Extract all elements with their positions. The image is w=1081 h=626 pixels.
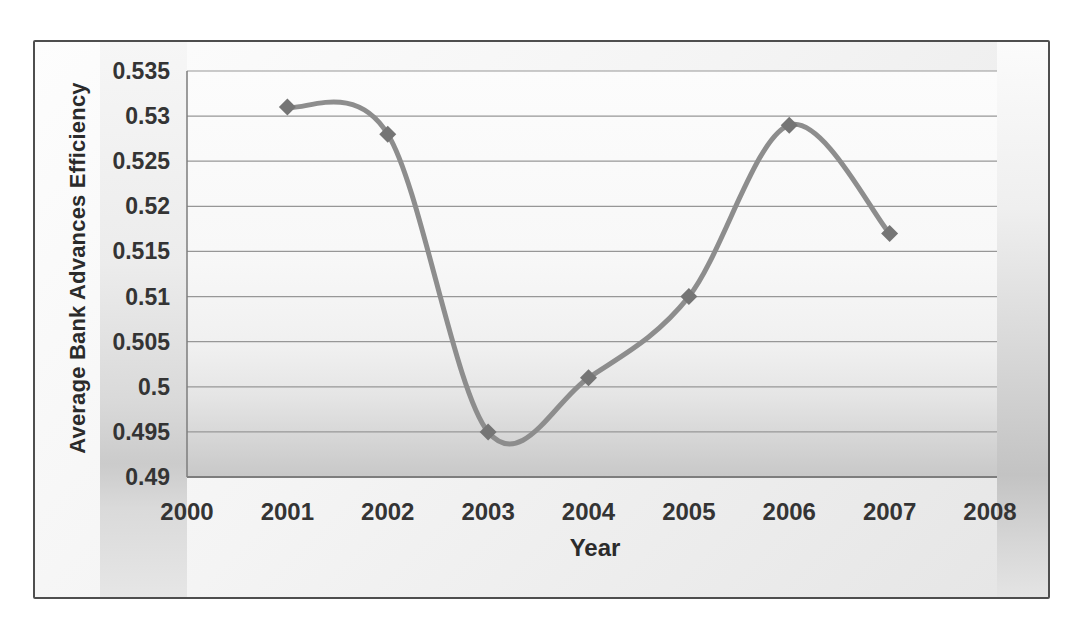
chart-frame bbox=[33, 40, 1050, 599]
scan-shading-left bbox=[100, 42, 187, 597]
scan-shading-right bbox=[997, 42, 1048, 597]
plot-area bbox=[187, 71, 997, 477]
y-axis-title: Average Bank Advances Efficiency bbox=[65, 82, 91, 454]
scanned-chart-page: 0.490.4950.50.5050.510.5150.520.5250.530… bbox=[0, 0, 1081, 626]
x-axis-title: Year bbox=[570, 534, 621, 562]
